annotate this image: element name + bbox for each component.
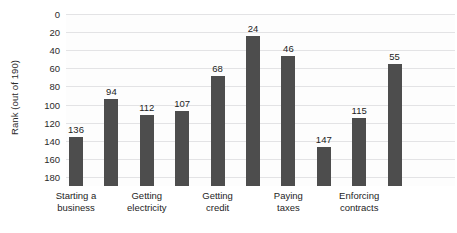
y-axis-tick-label: 160 bbox=[44, 153, 60, 164]
bar-value-label: 147 bbox=[316, 134, 332, 145]
category-label-line: contracts bbox=[339, 202, 379, 214]
bar-value-label: 136 bbox=[68, 124, 84, 135]
y-axis-tick-label: 80 bbox=[49, 81, 60, 92]
plot-area: 1369411210768244614711555 bbox=[66, 14, 455, 186]
bar[interactable] bbox=[246, 36, 260, 186]
category-label-line: Enforcing bbox=[339, 190, 379, 202]
y-axis-tick-label: 180 bbox=[44, 171, 60, 182]
bar-value-label: 94 bbox=[106, 86, 117, 97]
category-label: Gettingelectricity bbox=[127, 190, 167, 213]
category-label-line: Paying bbox=[274, 190, 303, 202]
category-label-line: taxes bbox=[274, 202, 303, 214]
y-axis-title: Rank (out of 190) bbox=[0, 0, 30, 195]
bar[interactable] bbox=[388, 64, 402, 186]
category-label-line: Getting bbox=[127, 190, 167, 202]
category-label-line: credit bbox=[202, 202, 233, 214]
bar[interactable] bbox=[69, 137, 83, 186]
category-label-line: Getting bbox=[202, 190, 233, 202]
chart-screenshot: Rank (out of 190) 0204060801001201401601… bbox=[0, 0, 457, 233]
bar-value-label: 55 bbox=[389, 51, 400, 62]
category-label: Enforcingcontracts bbox=[339, 190, 379, 213]
category-label-line: business bbox=[56, 202, 97, 214]
bar-value-label: 46 bbox=[283, 43, 294, 54]
y-axis-tick-label: 100 bbox=[44, 99, 60, 110]
category-label-line: electricity bbox=[127, 202, 167, 214]
category-label: Gettingcredit bbox=[202, 190, 233, 213]
bar[interactable] bbox=[175, 111, 189, 186]
gridline bbox=[66, 14, 455, 15]
y-axis-tick-label: 60 bbox=[49, 63, 60, 74]
category-label: Payingtaxes bbox=[274, 190, 303, 213]
category-label: Starting abusiness bbox=[56, 190, 97, 213]
bar-value-label: 24 bbox=[248, 23, 259, 34]
bar-value-label: 68 bbox=[212, 63, 223, 74]
y-axis-title-text: Rank (out of 190) bbox=[10, 60, 21, 135]
bar[interactable] bbox=[140, 115, 154, 186]
x-axis-category-labels: Starting abusinessGettingelectricityGett… bbox=[66, 190, 455, 233]
bar[interactable] bbox=[104, 99, 118, 186]
bar[interactable] bbox=[281, 56, 295, 186]
bar-value-label: 115 bbox=[352, 105, 367, 116]
y-axis-tick-label: 40 bbox=[49, 45, 60, 56]
bar-value-label: 107 bbox=[174, 98, 190, 109]
y-axis-tick-labels: 020406080100120140160180 bbox=[30, 0, 64, 195]
bar[interactable] bbox=[211, 76, 225, 186]
bar-value-label: 112 bbox=[139, 102, 154, 113]
y-axis-tick-label: 20 bbox=[49, 27, 60, 38]
bar[interactable] bbox=[317, 147, 331, 186]
bar[interactable] bbox=[352, 118, 366, 186]
y-axis-tick-label: 140 bbox=[44, 135, 60, 146]
gridline bbox=[66, 32, 455, 33]
y-axis-tick-label: 120 bbox=[44, 117, 60, 128]
category-label-line: Starting a bbox=[56, 190, 97, 202]
y-axis-tick-label: 0 bbox=[55, 9, 60, 20]
